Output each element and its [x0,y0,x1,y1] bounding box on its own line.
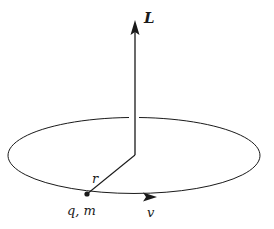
particle-dot [84,191,89,196]
label-angular-momentum: L [143,9,155,27]
label-radius: r [92,171,99,186]
label-velocity: v [147,205,155,220]
label-particle: q, m [67,203,96,218]
orbit-diagram: L r q, m v [0,0,274,229]
velocity-arrowhead [143,193,157,202]
